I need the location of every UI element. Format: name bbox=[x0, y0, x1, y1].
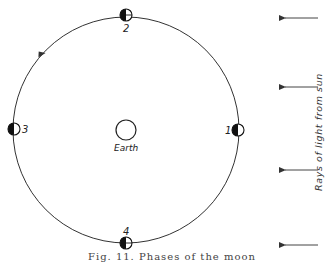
earth bbox=[116, 120, 136, 140]
moon-4 bbox=[120, 237, 132, 249]
moon-3-label: 3 bbox=[22, 125, 28, 135]
moon-3 bbox=[8, 123, 20, 135]
moon-2 bbox=[120, 9, 132, 21]
figure-caption: Fig. 11. Phases of the moon bbox=[88, 251, 256, 262]
moon-1-label: 1 bbox=[225, 126, 231, 136]
moon-4-label: 4 bbox=[123, 227, 129, 237]
earth-label: Earth bbox=[114, 143, 138, 153]
moon-1 bbox=[232, 124, 244, 136]
sun-rays-label: Rays of light from sun bbox=[313, 73, 324, 191]
moon-2-label: 2 bbox=[123, 24, 129, 34]
